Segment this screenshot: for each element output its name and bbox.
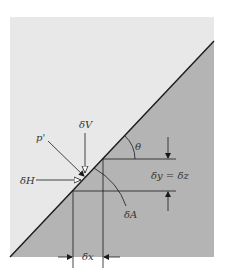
vertical-force-label: δV — [79, 119, 94, 130]
pressure-label: p' — [36, 132, 45, 143]
pressure-diagram: p' δV δH θ δy = δz δA δx — [0, 0, 225, 279]
width-label: δx — [82, 251, 94, 262]
area-label: δA — [124, 209, 137, 220]
height-label: δy = δz — [151, 170, 189, 181]
angle-label: θ — [135, 141, 141, 152]
horizontal-force-label: δH — [20, 175, 35, 186]
